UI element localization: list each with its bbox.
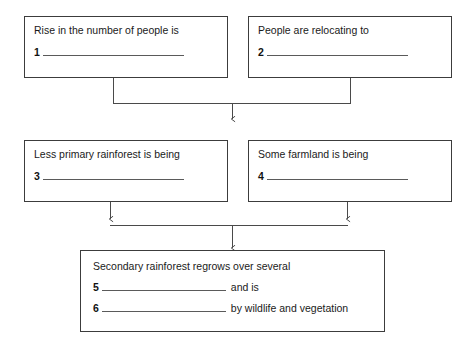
answer-blank-6[interactable] — [102, 301, 226, 312]
node-b-answer-row: 2 — [258, 45, 451, 59]
node-c-answer-row: 3 — [34, 169, 227, 183]
node-e-line3-tail: by wildlife and vegetation — [231, 302, 348, 315]
flow-node-rise-in-population: Rise in the number of people is 1 — [24, 16, 228, 78]
answer-blank-3[interactable] — [43, 169, 184, 180]
node-d-answer-row: 4 — [258, 169, 451, 183]
node-e-text: Secondary rainforest regrows over severa… — [93, 260, 384, 273]
flow-node-secondary-rainforest-regrows: Secondary rainforest regrows over severa… — [80, 250, 385, 332]
node-a-text: Rise in the number of people is — [34, 24, 227, 37]
flow-node-less-primary-rainforest: Less primary rainforest is being 3 — [24, 140, 228, 202]
connector-row1-to-row2 — [113, 78, 351, 104]
question-number-2: 2 — [258, 46, 264, 59]
node-e-line2-tail: and is — [231, 281, 259, 294]
node-b-text: People are relocating to — [258, 24, 451, 37]
answer-blank-1[interactable] — [43, 45, 184, 56]
node-a-answer-row: 1 — [34, 45, 227, 59]
question-number-6: 6 — [93, 302, 99, 315]
question-number-3: 3 — [34, 170, 40, 183]
answer-blank-2[interactable] — [267, 45, 408, 56]
question-number-1: 1 — [34, 46, 40, 59]
answer-blank-5[interactable] — [102, 280, 226, 291]
question-number-4: 4 — [258, 170, 264, 183]
question-number-5: 5 — [93, 281, 99, 294]
flowchart-canvas: Rise in the number of people is 1 People… — [0, 0, 469, 349]
flow-node-people-relocating: People are relocating to 2 — [248, 16, 452, 78]
flow-node-some-farmland: Some farmland is being 4 — [248, 140, 452, 202]
answer-blank-4[interactable] — [267, 169, 408, 180]
node-c-text: Less primary rainforest is being — [34, 148, 227, 161]
node-d-text: Some farmland is being — [258, 148, 451, 161]
node-e-answer-row-6: 6 by wildlife and vegetation — [93, 301, 384, 315]
node-e-answer-row-5: 5 and is — [93, 280, 384, 294]
